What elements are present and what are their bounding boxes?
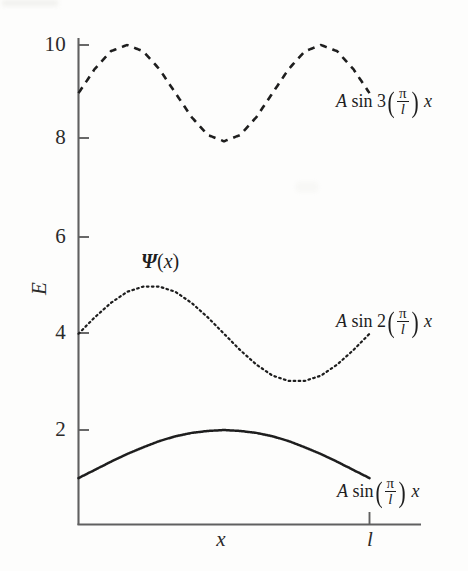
curve3-denominator: l bbox=[397, 101, 409, 117]
curve1-fraction: πl bbox=[385, 476, 397, 508]
y-tick-label-4: 4 bbox=[22, 322, 66, 343]
x-axis-title: x bbox=[210, 529, 232, 550]
y-tick-label-10: 10 bbox=[22, 34, 66, 55]
curve3-function: sin bbox=[352, 91, 373, 111]
curve1-numerator: π bbox=[385, 476, 397, 491]
y-tick-marks bbox=[79, 45, 90, 430]
curve3-open-paren: ( bbox=[387, 87, 394, 117]
curve1-function: sin bbox=[353, 481, 374, 501]
curve2-open-paren: ( bbox=[387, 307, 394, 337]
curve3-close-paren: ) bbox=[411, 87, 418, 117]
curve1-amplitude: A bbox=[337, 481, 348, 501]
curve2-coefficient: 2 bbox=[377, 311, 386, 331]
psi-open-paren: ( bbox=[157, 250, 164, 272]
curve-mode-1 bbox=[79, 430, 370, 478]
curve-mode-3 bbox=[79, 45, 370, 141]
y-tick-label-8: 8 bbox=[22, 127, 66, 148]
x-tick-label-l: l bbox=[360, 529, 380, 550]
curve-label-mode-3: A sin 3(πl) x bbox=[336, 87, 432, 119]
curve3-fraction: πl bbox=[397, 86, 409, 118]
psi-symbol: Ψ bbox=[141, 250, 157, 272]
psi-close-paren: ) bbox=[173, 250, 180, 272]
curve3-numerator: π bbox=[397, 86, 409, 101]
curve2-numerator: π bbox=[397, 306, 409, 321]
curve2-fraction: πl bbox=[397, 306, 409, 338]
curve1-open-paren: ( bbox=[375, 477, 382, 507]
curve2-function: sin bbox=[352, 311, 373, 331]
curve3-amplitude: A bbox=[336, 91, 347, 111]
y-axis-title: E bbox=[29, 277, 50, 301]
curve-label-mode-1: A sin(πl) x bbox=[337, 477, 420, 509]
curve-label-mode-2: A sin 2(πl) x bbox=[336, 307, 432, 339]
curve1-variable: x bbox=[412, 481, 420, 501]
curve3-coefficient: 3 bbox=[377, 91, 386, 111]
curve2-variable: x bbox=[424, 311, 432, 331]
curve-mode-2 bbox=[79, 287, 370, 381]
y-tick-label-2: 2 bbox=[22, 419, 66, 440]
curve3-variable: x bbox=[424, 91, 432, 111]
quantum-wavefunction-figure: 10 8 6 4 2 E x l Ψ(x) A sin 3(πl) x A si… bbox=[0, 0, 468, 571]
psi-variable: x bbox=[164, 250, 173, 272]
curve1-denominator: l bbox=[385, 491, 397, 507]
curve2-denominator: l bbox=[397, 321, 409, 337]
curve2-close-paren: ) bbox=[411, 307, 418, 337]
curve2-amplitude: A bbox=[336, 311, 347, 331]
curve1-close-paren: ) bbox=[398, 477, 405, 507]
y-tick-label-6: 6 bbox=[22, 226, 66, 247]
psi-annotation: Ψ(x) bbox=[141, 251, 179, 271]
